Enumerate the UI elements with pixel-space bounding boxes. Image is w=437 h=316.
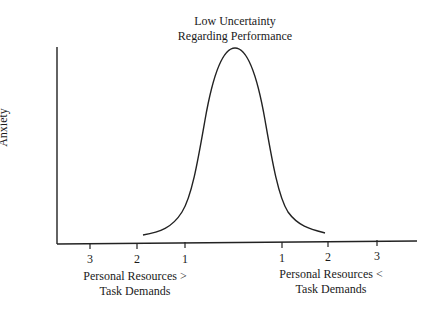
y-axis-label: Anxiety [0, 103, 11, 153]
x-axis [57, 241, 417, 244]
tick-left-1: 1 [175, 252, 195, 267]
chart-title-line2: Regarding Performance [155, 29, 315, 43]
tick-left-3: 3 [80, 252, 100, 267]
anxiety-curve [143, 48, 325, 235]
tick-right-1: 1 [272, 251, 292, 266]
x-label-right-line1: Personal Resources < [266, 267, 396, 281]
chart-title-line1: Low Uncertainty [155, 14, 315, 28]
x-label-left-line1: Personal Resources > [70, 269, 200, 283]
tick-right-2: 2 [318, 250, 338, 265]
x-label-left-line2: Task Demands [70, 284, 200, 298]
tick-right-3: 3 [367, 249, 387, 264]
tick-left-2: 2 [127, 252, 147, 267]
x-label-right-line2: Task Demands [266, 282, 396, 296]
